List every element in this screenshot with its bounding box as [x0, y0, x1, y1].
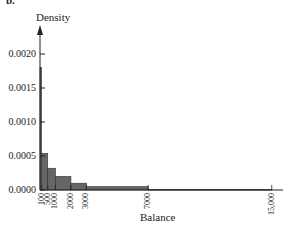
histogram-bar [71, 183, 86, 190]
x-tick-label: 15,000 [268, 193, 276, 215]
y-tick-label: 0.0015 [2, 83, 36, 93]
histogram-bar [42, 153, 48, 190]
y-tick-label: 0.0000 [2, 185, 36, 195]
y-tick-label: 0.0020 [2, 49, 36, 59]
y-tick-label: 0.0010 [2, 117, 36, 127]
y-tick-label: 0.0005 [2, 151, 36, 161]
x-tick-label: 1000 [51, 193, 59, 209]
histogram-bar [55, 176, 70, 190]
histogram-bar [48, 168, 56, 190]
x-tick-label: 3000 [82, 193, 90, 209]
histogram-chart: b. Density Balance 0.00000.00050.00100.0… [0, 0, 290, 227]
x-tick-label: 2000 [67, 193, 75, 209]
y-axis-arrow-icon [37, 25, 43, 35]
x-tick-label: 7000 [144, 193, 152, 209]
histogram-bar [86, 187, 148, 190]
